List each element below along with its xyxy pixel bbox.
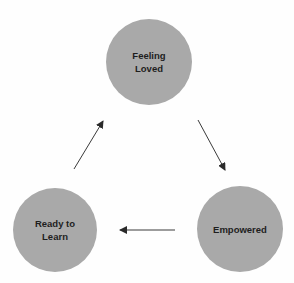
node-empowered: Empowered (197, 186, 283, 272)
arrow-loved-to-empowered (198, 120, 225, 170)
node-label-empowered: Empowered (213, 223, 267, 236)
node-ready-to-learn: Ready to Learn (13, 188, 97, 272)
arrow-ready-to-loved (74, 121, 103, 169)
node-label-ready-to-learn: Ready to Learn (35, 217, 75, 243)
cycle-diagram: Feeling Loved Empowered Ready to Learn (0, 0, 294, 283)
node-label-feeling-loved: Feeling Loved (132, 49, 165, 75)
node-feeling-loved: Feeling Loved (106, 19, 192, 105)
